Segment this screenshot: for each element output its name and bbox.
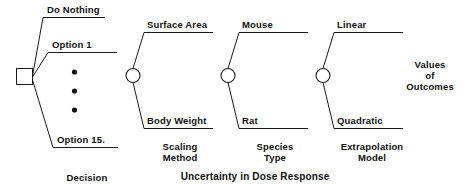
branch-label-option-15: Option 15. [57,134,105,145]
outcome-label-line2: of [425,70,434,81]
diagram-bottom-title: Uncertainty in Dose Response [181,171,330,183]
outcome-label-line3: Outcomes [406,81,454,92]
branch-label-quadratic: Quadratic [337,115,383,126]
branch-label-do-nothing: Do Nothing [47,4,100,15]
stage-label-species-type-line2: Type [264,152,286,164]
chance-circle-extrapolation-model [316,69,330,83]
branch-label-linear: Linear [337,19,366,30]
branch-line-rat [228,83,308,129]
ellipsis-dots-group [72,69,77,112]
decision-square-node [17,69,33,85]
stage-label-species-type-line1: Species [257,141,294,153]
branch-label-mouse: Mouse [242,19,273,30]
branch-label-option-1: Option 1 [52,39,92,50]
stage-label-extrapolation-model-line2: Model [358,152,386,164]
stage-label-scaling-method-line2: Method [163,152,198,164]
decision-tree-diagram: Do Nothing Option 1 Option 15. Decision … [0,0,470,190]
chance-circle-scaling-method [126,69,140,83]
branch-label-body-weight: Body Weight [147,115,207,126]
chance-circle-species-type [221,69,235,83]
ellipsis-dot-2 [72,88,77,93]
ellipsis-dot-1 [72,69,77,74]
stage-label-extrapolation-model-line1: Extrapolation [341,141,404,153]
branch-label-rat: Rat [242,115,258,126]
branch-line-surface-area [133,33,213,69]
branch-line-mouse [228,33,308,69]
ellipsis-dot-3 [72,107,77,112]
stage-label-decision: Decision [67,172,108,184]
outcome-label-line1: Values [414,59,445,70]
stage-label-scaling-method-line1: Scaling [163,141,198,153]
branch-label-surface-area: Surface Area [147,19,207,30]
branch-line-linear [323,33,403,69]
tree-lines-layer [0,0,470,190]
